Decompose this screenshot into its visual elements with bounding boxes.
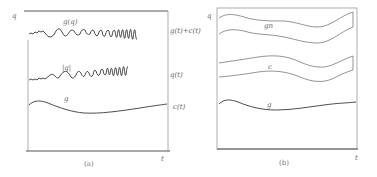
label-c: c: [268, 63, 272, 71]
panel-a-q-axis-label: q: [12, 12, 17, 20]
curve-g: [29, 101, 167, 113]
label-g-t-plus-c-t: g(t)+c(t): [170, 27, 201, 35]
curve-g-b: [219, 100, 356, 110]
panel-b-caption: (b): [279, 159, 289, 167]
label-g-b: g: [267, 101, 272, 109]
label-g-of-q: g(q): [63, 18, 78, 26]
panel-b-q-axis-label: q: [207, 12, 212, 20]
label-c-t: c(t): [173, 103, 185, 111]
panel-a-caption: (a): [84, 160, 94, 168]
panel-b-t-axis-label: t: [355, 154, 358, 162]
band-gn-upper: [219, 12, 353, 27]
band-c-lower: [219, 70, 353, 81]
panel-a: q g(q) |q| g g(t)+c(t) q(t) c(t) t (a): [12, 11, 201, 168]
figure: q g(q) |q| g g(t)+c(t) q(t) c(t) t (a) q…: [0, 0, 377, 177]
panel-b-frame: [217, 8, 357, 149]
panel-a-t-axis-label: t: [161, 155, 164, 163]
label-abs-q: |q|: [62, 64, 71, 72]
label-q-t: q(t): [170, 71, 183, 79]
curve-abs-q: [29, 67, 128, 80]
band-c-upper: [219, 56, 353, 67]
panel-b: q gn c g t (b): [207, 8, 358, 167]
curve-g-of-q: [29, 29, 137, 40]
band-gn-lower: [219, 27, 353, 43]
label-g: g: [64, 95, 69, 103]
label-gn: gn: [264, 22, 273, 30]
